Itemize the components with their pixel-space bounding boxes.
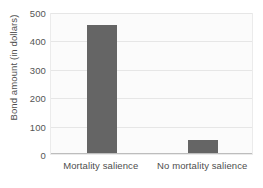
y-axis-title: Bond amount (in dollars) [8,0,19,143]
gridline [51,13,252,14]
x-tick-label: No mortality salience [157,160,247,171]
y-tick-label: 400 [20,36,46,47]
bar-2 [188,140,218,153]
y-axis-tick-labels: 0100200300400500 [20,0,46,188]
bar-1 [87,25,117,153]
gridline [51,41,252,42]
plot-area [50,13,253,155]
y-tick-label: 500 [20,8,46,19]
y-tick-label: 0 [20,150,46,161]
gridline [51,98,252,99]
y-tick-label: 300 [20,64,46,75]
gridline [51,70,252,71]
x-axis-line [51,153,252,154]
gridline [51,127,252,128]
x-tick-label: Mortality salience [63,160,138,171]
x-axis-tick-labels: Mortality salienceNo mortality salience [50,160,253,180]
y-tick-label: 100 [20,121,46,132]
bar-chart-figure: Bond amount (in dollars) 010020030040050… [0,0,263,188]
y-tick-label: 200 [20,93,46,104]
